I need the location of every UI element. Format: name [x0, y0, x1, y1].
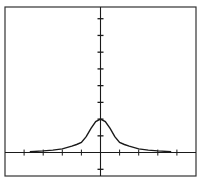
axes: [5, 7, 196, 176]
function-plot: [0, 0, 201, 186]
